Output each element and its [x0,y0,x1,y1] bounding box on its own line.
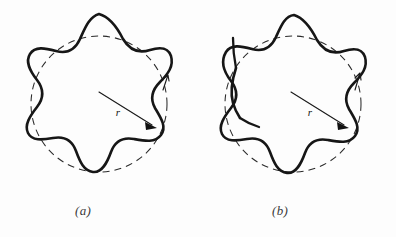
radius-arrow-line-b [291,92,344,125]
caption-panel-a: (a) [75,203,91,219]
caption-panel-b: (b) [272,203,288,219]
reference-circle-b [225,36,361,172]
scan-artifact-line-1 [6,205,19,214]
panel-b-graphic: r [0,0,396,237]
scan-artifact-line-2 [8,219,17,228]
loose-end-upper-b [233,38,236,68]
figure-canvas: r r (a) (b) [0,0,396,237]
loose-end-lower-b [240,118,259,127]
radius-label-b: r [308,106,313,118]
radius-arrow-head-b [337,122,349,130]
